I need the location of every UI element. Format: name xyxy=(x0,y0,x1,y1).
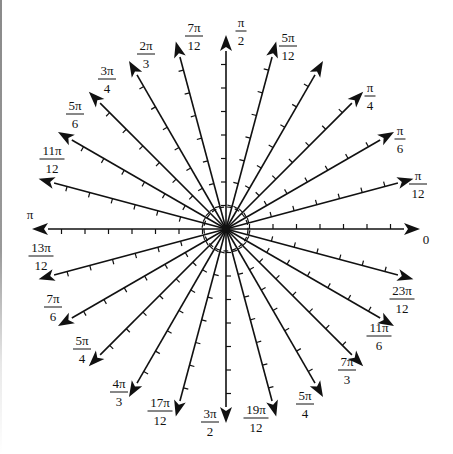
tick-mark xyxy=(215,206,220,207)
arrowhead-icon xyxy=(174,399,186,416)
label-numerator: 7π xyxy=(46,291,60,306)
label-numerator: 2π xyxy=(139,38,153,53)
arrowhead-icon xyxy=(129,380,142,397)
arrowhead-icon xyxy=(32,223,48,235)
tick-mark xyxy=(89,193,90,198)
tick-mark xyxy=(198,188,202,191)
ray-30 xyxy=(226,132,394,229)
tick-mark xyxy=(307,272,310,276)
ray-line xyxy=(72,140,226,229)
arrowhead-icon xyxy=(310,61,323,78)
tick-mark xyxy=(264,69,269,70)
tick-mark xyxy=(181,241,182,246)
tick-mark xyxy=(270,212,271,217)
tick-mark xyxy=(206,241,209,245)
tick-mark xyxy=(259,259,263,263)
tick-mark xyxy=(328,283,331,287)
tick-mark xyxy=(227,205,232,206)
tick-mark xyxy=(264,201,267,205)
label-numerator: 7π xyxy=(340,354,354,369)
ray-line xyxy=(72,229,226,318)
label-denominator: 12 xyxy=(412,186,425,201)
label-240: 4π3 xyxy=(110,376,128,409)
label-denominator: 4 xyxy=(79,351,86,366)
tick-mark xyxy=(214,274,219,275)
tick-mark xyxy=(134,205,135,210)
label-150: 5π6 xyxy=(66,98,84,131)
label-195: 13π12 xyxy=(29,240,54,273)
tick-mark xyxy=(269,145,273,148)
origin-point xyxy=(222,225,230,233)
tick-mark xyxy=(179,310,183,313)
tick-mark xyxy=(66,186,67,191)
label-numerator: π xyxy=(238,15,245,30)
tick-mark xyxy=(193,262,197,266)
ray-line xyxy=(226,229,315,383)
ray-255 xyxy=(174,229,226,416)
tick-mark xyxy=(306,142,310,146)
tick-mark xyxy=(143,312,147,316)
tick-mark xyxy=(325,166,328,170)
label-numerator: π xyxy=(397,123,404,138)
tick-mark xyxy=(339,109,343,113)
tick-mark xyxy=(317,248,318,253)
tick-mark xyxy=(122,170,125,174)
tick-mark xyxy=(156,351,160,354)
tick-mark xyxy=(285,189,288,193)
ray-line xyxy=(137,229,226,383)
tick-mark xyxy=(322,126,326,130)
ray-75 xyxy=(226,42,278,229)
label-165: 11π12 xyxy=(40,143,65,176)
tick-mark xyxy=(165,264,168,268)
ray-line xyxy=(226,229,380,318)
ray-line xyxy=(180,57,226,229)
label-numerator: 11π xyxy=(42,143,62,158)
label-numerator: 17π xyxy=(150,395,170,410)
label-numerator: 19π xyxy=(246,402,266,417)
arrowhead-icon xyxy=(396,269,413,281)
ray-270 xyxy=(220,229,232,423)
arrowhead-icon xyxy=(377,132,394,145)
label-numerator: 3π xyxy=(100,63,114,78)
tick-mark xyxy=(238,273,243,274)
label-denominator: 3 xyxy=(116,394,123,409)
label-90: π2 xyxy=(236,15,247,48)
tick-mark xyxy=(126,329,130,333)
tick-mark xyxy=(209,184,214,185)
tick-mark xyxy=(220,252,225,253)
label-180: π xyxy=(27,207,34,222)
ray-195 xyxy=(39,229,226,281)
label-135: 3π4 xyxy=(98,63,116,96)
tick-mark xyxy=(272,176,276,180)
label-denominator: 12 xyxy=(35,258,48,273)
label-numerator: 11π xyxy=(369,320,389,335)
tick-mark xyxy=(384,182,385,187)
tick-mark xyxy=(173,179,177,183)
label-numerator: 3π xyxy=(203,406,217,421)
tick-mark xyxy=(271,236,272,241)
tick-mark xyxy=(368,307,371,311)
tick-mark xyxy=(338,194,339,199)
tick-mark xyxy=(189,196,193,200)
ray-45 xyxy=(226,92,363,229)
arrowhead-icon xyxy=(174,42,186,59)
tick-mark xyxy=(135,253,136,258)
tick-mark xyxy=(162,194,165,198)
tick-mark xyxy=(142,182,145,186)
tick-mark xyxy=(239,209,243,213)
tick-mark xyxy=(249,230,250,235)
tick-mark xyxy=(305,178,308,182)
tick-mark xyxy=(256,341,261,342)
tick-mark xyxy=(262,364,267,365)
tick-mark xyxy=(163,127,167,130)
label-numerator: 23π xyxy=(392,283,412,298)
tick-mark xyxy=(160,295,164,299)
tick-mark xyxy=(111,199,112,204)
tick-mark xyxy=(273,308,277,311)
tick-mark xyxy=(252,114,257,115)
label-denominator: 4 xyxy=(302,406,309,421)
label-denominator: 12 xyxy=(282,48,295,63)
tick-mark xyxy=(239,160,244,161)
arrowhead-icon xyxy=(129,61,142,78)
tick-mark xyxy=(202,223,203,228)
